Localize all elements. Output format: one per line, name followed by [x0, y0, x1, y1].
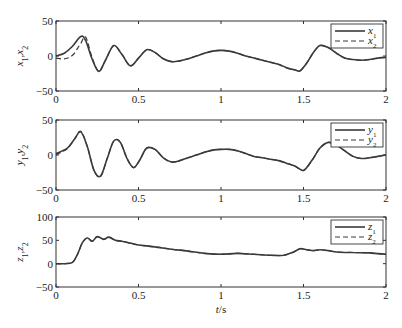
y-tick-label: 100	[37, 211, 54, 223]
x-tick-label: 0	[53, 93, 59, 105]
x-tick-label: 1.5	[297, 93, 311, 105]
x-tick-label: 1	[218, 93, 224, 105]
y-tick-label: 50	[42, 114, 54, 126]
x-axis-label: t/s	[216, 303, 226, 315]
subplot-1: 00.511.52−50050x1,x2x1x2	[13, 15, 389, 105]
legend: y1y2	[331, 123, 383, 149]
x-tick-label: 0.5	[132, 93, 146, 105]
legend: x1x2	[331, 24, 383, 50]
legend: z1z2	[331, 220, 383, 246]
y-tick-label: 0	[48, 258, 54, 270]
y-tick-label: −50	[36, 281, 54, 293]
x-tick-label: 1	[218, 192, 224, 204]
x-tick-label: 1	[218, 289, 224, 301]
y-axis-label: y1,y2	[13, 145, 30, 167]
x-tick-label: 2	[383, 289, 389, 301]
x-tick-label: 0	[53, 289, 59, 301]
x-tick-label: 0	[53, 192, 59, 204]
y-axis-label: z1,z2	[13, 242, 30, 262]
y-tick-label: −50	[36, 85, 54, 97]
x-tick-label: 2	[383, 192, 389, 204]
x-tick-label: 1.5	[297, 289, 311, 301]
y-axis-label: x1,x2	[13, 46, 30, 68]
y-tick-label: −50	[36, 184, 54, 196]
y-tick-label: 0	[48, 149, 54, 161]
subplot-3: 00.511.52−50050100z1,z2t/sz1z2	[13, 211, 389, 315]
y-tick-label: 0	[48, 50, 54, 62]
x-tick-label: 1.5	[297, 192, 311, 204]
x-tick-label: 2	[383, 93, 389, 105]
subplot-2: 00.511.52−50050y1,y2y1y2	[13, 114, 389, 204]
y-tick-label: 50	[42, 15, 54, 27]
x-tick-label: 0.5	[132, 192, 146, 204]
figure: 00.511.52−50050x1,x2x1x200.511.52−50050y…	[0, 0, 402, 328]
y-tick-label: 50	[42, 234, 54, 246]
x-tick-label: 0.5	[132, 289, 146, 301]
